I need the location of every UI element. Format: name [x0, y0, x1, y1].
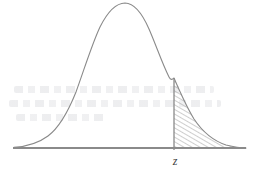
normal-distribution-curve — [14, 3, 246, 148]
shaded-tail-region — [170, 74, 250, 152]
figure-canvas — [0, 0, 259, 175]
normal-curve-figure: z — [0, 0, 259, 175]
z-axis-label: z — [173, 155, 178, 167]
